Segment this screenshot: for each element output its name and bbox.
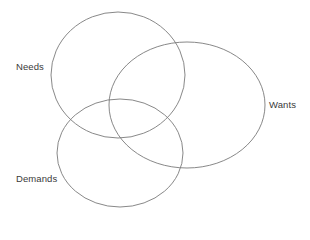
demands-circle (57, 99, 183, 207)
needs-label: Needs (16, 62, 44, 72)
demands-label: Demands (16, 174, 57, 184)
wants-label: Wants (269, 100, 296, 110)
wants-circle (109, 42, 265, 168)
